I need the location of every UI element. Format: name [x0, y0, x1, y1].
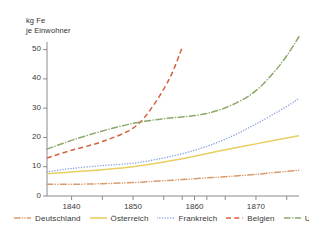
legend-item-usa[interactable]: USA: [284, 214, 309, 223]
legend-swatch-icon: [284, 214, 301, 222]
legend-label: Belgien: [247, 214, 274, 223]
series-line-usa: [47, 37, 299, 149]
legend-swatch-icon: [90, 214, 107, 222]
chart-legend: DeutschlandÖsterreichFrankreichBelgienUS…: [14, 211, 299, 225]
series-line-deutschland: [47, 170, 299, 184]
legend-label: Österreich: [111, 214, 149, 223]
legend-item-deutschland[interactable]: Deutschland: [14, 214, 81, 223]
plot-area: [0, 0, 309, 229]
legend-swatch-icon: [157, 214, 174, 222]
legend-label: USA: [305, 214, 309, 223]
series-line-belgien: [47, 47, 182, 158]
legend-item-frankreich[interactable]: Frankreich: [157, 214, 217, 223]
series-line-sterreich: [47, 136, 299, 174]
legend-item-belgien[interactable]: Belgien: [226, 214, 274, 223]
chart-container: kg Fe je Einwohner 01020304050 184018501…: [0, 0, 309, 229]
legend-label: Deutschland: [35, 214, 81, 223]
legend-swatch-icon: [226, 214, 243, 222]
legend-swatch-icon: [14, 214, 31, 222]
legend-label: Frankreich: [178, 214, 217, 223]
legend-item-sterreich[interactable]: Österreich: [90, 214, 149, 223]
